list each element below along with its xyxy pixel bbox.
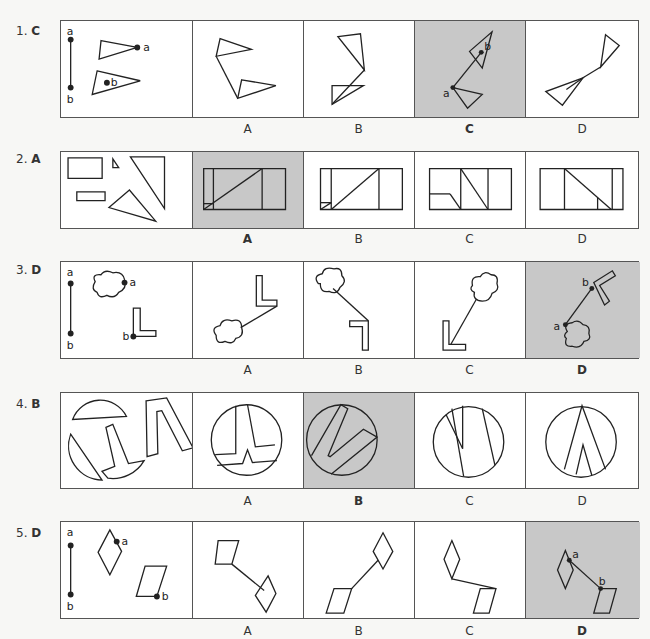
svg-text:a: a	[122, 535, 129, 548]
question-2-option-d[interactable]	[526, 152, 640, 228]
question-1-label-b: B	[303, 122, 414, 136]
question-5-number: 5. D	[16, 526, 41, 540]
question-4-answer: B	[31, 397, 40, 411]
svg-text:b: b	[162, 590, 169, 603]
question-5-option-c[interactable]	[415, 522, 526, 618]
svg-text:b: b	[123, 330, 130, 343]
svg-text:a: a	[67, 526, 74, 539]
question-4-number: 4. B	[16, 397, 40, 411]
question-5-label-b: B	[303, 624, 414, 638]
triangles-pieces-icon: a b a b	[61, 21, 192, 117]
question-4-option-b[interactable]	[304, 393, 415, 488]
svg-text:b: b	[67, 93, 74, 106]
question-1-option-b[interactable]	[304, 21, 415, 117]
svg-text:a: a	[443, 87, 450, 100]
question-3-label-a: A	[192, 363, 303, 377]
question-3-option-b[interactable]	[304, 262, 415, 358]
question-3-row: a b a b ba	[60, 261, 639, 359]
circle-pieces-icon	[61, 393, 192, 488]
question-4-prompt	[61, 393, 193, 488]
question-1-label-d: D	[525, 122, 639, 136]
svg-text:a: a	[67, 25, 74, 38]
question-4-label-c: C	[414, 494, 525, 508]
question-2-label-d: D	[525, 232, 639, 246]
question-4-row	[60, 392, 639, 489]
svg-text:b: b	[67, 600, 74, 613]
question-5-option-d[interactable]: ab	[526, 522, 640, 618]
question-3-label-c: C	[414, 363, 525, 377]
question-5-label-c: C	[414, 624, 525, 638]
question-1-label-c: C	[414, 122, 525, 136]
question-3-option-a[interactable]	[193, 262, 304, 358]
question-3-answer: D	[31, 263, 41, 277]
question-4-label-d: D	[525, 494, 639, 508]
svg-text:b: b	[111, 76, 118, 89]
question-2-label-b: B	[303, 232, 414, 246]
svg-text:a: a	[554, 320, 561, 333]
shape-pieces-icon	[61, 152, 192, 228]
question-5-row: a b a b ab	[60, 521, 639, 619]
question-2-label-c: C	[414, 232, 525, 246]
question-5-answer: D	[31, 526, 41, 540]
question-2-label-a: A	[192, 232, 303, 246]
question-1-label-a: A	[192, 122, 303, 136]
question-4-label-b: B	[303, 494, 414, 508]
svg-text:b: b	[484, 40, 491, 53]
question-1-number: 1. C	[16, 24, 40, 38]
question-2-answer: A	[31, 152, 40, 166]
question-5-prompt: a b a b	[61, 522, 193, 618]
svg-text:a: a	[129, 276, 136, 289]
question-1-answer: C	[31, 24, 40, 38]
svg-text:a: a	[572, 548, 579, 561]
question-3-prompt: a b a b	[61, 262, 193, 358]
question-3-label-b: B	[303, 363, 414, 377]
question-4-option-a[interactable]	[193, 393, 304, 488]
svg-text:a: a	[67, 266, 74, 279]
question-2-number: 2. A	[16, 152, 41, 166]
question-2-option-c[interactable]	[415, 152, 526, 228]
svg-text:b: b	[599, 575, 606, 588]
svg-text:b: b	[67, 339, 74, 352]
rhombus-pieces-icon: a b a b	[61, 522, 192, 618]
question-1-row: a b a b ba	[60, 20, 639, 118]
cloud-and-l-pieces-icon: a b a b	[61, 262, 192, 358]
question-5-label-d: D	[525, 624, 639, 638]
question-5-option-a[interactable]	[193, 522, 304, 618]
svg-text:b: b	[582, 276, 589, 289]
question-3-label-d: D	[525, 363, 639, 377]
question-4-label-a: A	[192, 494, 303, 508]
question-3-number: 3. D	[16, 263, 41, 277]
question-2-option-a[interactable]	[193, 152, 304, 228]
question-1-option-a[interactable]	[193, 21, 304, 117]
question-2-option-b[interactable]	[304, 152, 415, 228]
question-4-option-d[interactable]	[526, 393, 640, 488]
question-2-row	[60, 151, 639, 229]
question-1-option-d[interactable]	[526, 21, 640, 117]
question-5-option-b[interactable]	[304, 522, 415, 618]
question-3-option-c[interactable]	[415, 262, 526, 358]
svg-text:a: a	[143, 41, 150, 54]
question-5-label-a: A	[192, 624, 303, 638]
question-4-option-c[interactable]	[415, 393, 526, 488]
question-3-option-d[interactable]: ba	[526, 262, 640, 358]
question-2-prompt	[61, 152, 193, 228]
question-1-prompt: a b a b	[61, 21, 193, 117]
question-1-option-c[interactable]: ba	[415, 21, 526, 117]
